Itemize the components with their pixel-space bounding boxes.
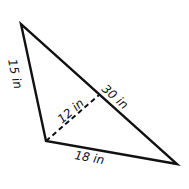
triangle-diagram: 15 in 30 in 12 in 18 in [0, 0, 189, 189]
triangle-outline [21, 24, 177, 164]
label-side-left: 15 in [5, 58, 25, 90]
